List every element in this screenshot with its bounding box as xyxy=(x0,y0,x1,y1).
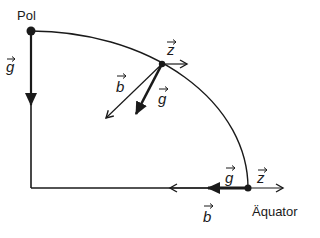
svg-text:z: z xyxy=(256,169,265,186)
pole-label: Pol xyxy=(17,8,36,23)
equator-g-label: g xyxy=(225,166,235,187)
mid-z-label: z xyxy=(166,40,176,59)
earth-quadrant-diagram: Pol g z b g g z b Äquator xyxy=(0,0,320,238)
mid-b-vector xyxy=(106,64,162,118)
mid-b-label: b xyxy=(116,74,126,96)
equator-z-label: z xyxy=(256,168,267,187)
equator-point xyxy=(245,185,252,192)
svg-text:g: g xyxy=(158,90,167,107)
svg-text:g: g xyxy=(225,169,234,186)
mid-g-label: g xyxy=(158,87,168,108)
equator-label: Äquator xyxy=(252,204,298,219)
equator-b-label: b xyxy=(203,204,213,226)
pole-g-label: g xyxy=(6,57,15,76)
svg-text:b: b xyxy=(203,208,211,225)
svg-text:b: b xyxy=(116,78,124,95)
